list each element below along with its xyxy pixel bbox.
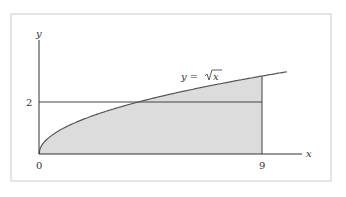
y-axis-label: y — [35, 28, 42, 39]
origin-label: 0 — [36, 160, 42, 171]
y-tick-2: 2 — [26, 97, 32, 108]
x-tick-9: 9 — [259, 160, 265, 171]
chart: y x 0 9 2 y = x — [0, 0, 346, 197]
x-axis-label: x — [306, 148, 312, 159]
curve-label-rad: x — [213, 71, 219, 82]
curve-label-lhs: y = — [180, 71, 198, 82]
